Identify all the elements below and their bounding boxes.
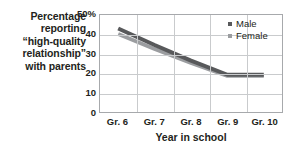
x-axis-tick-label: Gr. 8 — [180, 116, 201, 127]
y-axis-tick-label: 0 — [62, 108, 96, 118]
y-axis-tick-label: 40 — [62, 29, 96, 39]
x-axis-tick-label: Gr. 10 — [251, 116, 277, 127]
legend-label-male: Male — [236, 18, 257, 30]
gridline-vertical — [210, 15, 211, 112]
gridline-horizontal — [100, 55, 282, 56]
gridline-horizontal — [100, 74, 282, 75]
gridline-horizontal — [100, 94, 282, 95]
x-axis-tick-label: Gr. 7 — [144, 116, 165, 127]
legend-item-female: Female — [228, 30, 268, 42]
y-axis-tick-label: 50% — [62, 9, 96, 19]
gridline-vertical — [137, 15, 138, 112]
legend-label-female: Female — [236, 30, 268, 42]
chart-figure: Percentage reporting “high-quality relat… — [0, 0, 296, 155]
y-axis-tick-label: 10 — [62, 88, 96, 98]
legend-swatch-male-icon — [228, 22, 232, 26]
x-axis-tick-label: Gr. 6 — [107, 116, 128, 127]
y-axis-tick-label: 30 — [62, 49, 96, 59]
legend-item-male: Male — [228, 18, 268, 30]
x-axis-tick-label: Gr. 9 — [217, 116, 238, 127]
legend-swatch-female-icon — [228, 34, 232, 38]
chart-legend: Male Female — [228, 18, 268, 42]
y-axis-tick-label: 20 — [62, 68, 96, 78]
x-axis-title: Year in school — [99, 131, 283, 143]
y-axis-ticks: 01020304050% — [62, 0, 96, 155]
gridline-vertical — [174, 15, 175, 112]
